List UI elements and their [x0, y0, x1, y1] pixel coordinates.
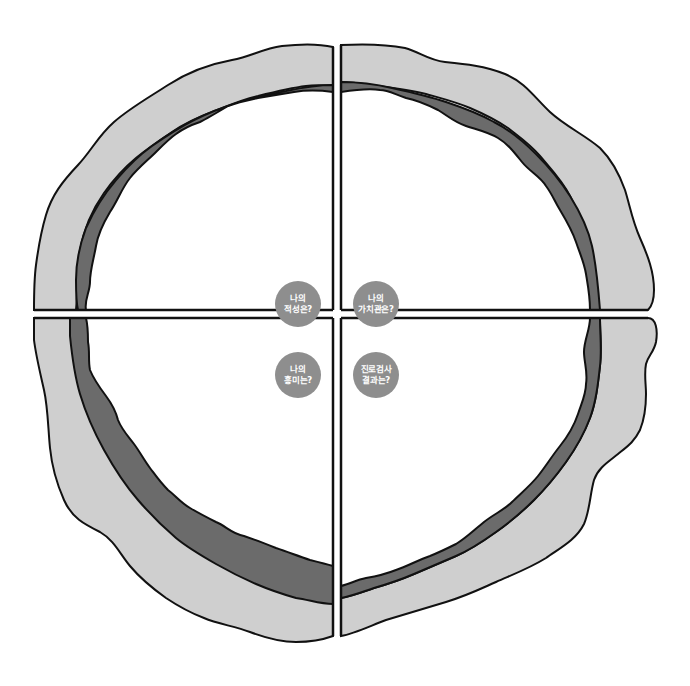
badge-bottom-left-line1: 나의 [290, 364, 305, 375]
badge-bottom-right: 진로검사 결과는? [353, 352, 399, 398]
quadrant-top-right [341, 44, 654, 310]
badge-bottom-left-line2: 흥미는? [284, 375, 312, 386]
outer-band-top-right [341, 44, 654, 310]
badge-top-right-line2: 가치관은? [358, 304, 393, 315]
badge-top-right: 나의 가치관은? [353, 281, 399, 327]
badge-bottom-right-line2: 결과는? [362, 375, 390, 386]
badge-top-left-line1: 나의 [290, 293, 305, 304]
badge-top-right-line1: 나의 [368, 293, 383, 304]
quadrant-top-left [30, 20, 333, 310]
badge-top-left-line2: 적성은? [284, 304, 312, 315]
inner-band-top-left [76, 85, 333, 310]
badge-bottom-right-line1: 진로검사 [361, 364, 392, 375]
badge-bottom-left: 나의 흥미는? [275, 352, 321, 398]
inner-band-top-right [341, 82, 600, 310]
quadrant-ring-diagram [0, 0, 690, 686]
badge-top-left: 나의 적성은? [275, 281, 321, 327]
